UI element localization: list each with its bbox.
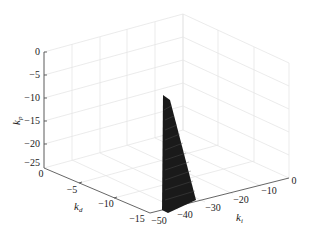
svg-text:−20: −20 — [233, 194, 249, 205]
svg-text:−40: −40 — [177, 209, 193, 220]
svg-text:−10: −10 — [261, 185, 277, 196]
svg-text:−30: −30 — [205, 202, 221, 213]
svg-text:0: 0 — [35, 46, 40, 57]
kp-axis-label: kp — [10, 116, 24, 125]
kp-tick-labels: 0 −5 −10 −15 −20 −25 — [24, 46, 40, 168]
kd-axis-label: kd — [74, 200, 83, 214]
svg-text:−5: −5 — [29, 69, 40, 80]
svg-text:0: 0 — [292, 175, 297, 186]
svg-text:−5: −5 — [67, 184, 78, 195]
ki-axis-label: ki — [236, 211, 243, 225]
svg-text:−25: −25 — [24, 157, 40, 168]
svg-text:−10: −10 — [24, 92, 40, 103]
chart-3d: 0 −5 −10 −15 −20 −25 kp 0 −5 −10 −15 kd … — [0, 0, 309, 236]
svg-text:−15: −15 — [129, 213, 145, 224]
svg-text:−10: −10 — [98, 198, 114, 209]
grid-back-right — [183, 14, 289, 178]
kd-tick-labels: 0 −5 −10 −15 — [39, 168, 145, 224]
svg-text:−15: −15 — [24, 115, 40, 126]
svg-text:−20: −20 — [24, 138, 40, 149]
svg-text:−50: −50 — [151, 215, 167, 226]
grid-back-left — [44, 14, 183, 168]
svg-text:0: 0 — [39, 168, 44, 179]
